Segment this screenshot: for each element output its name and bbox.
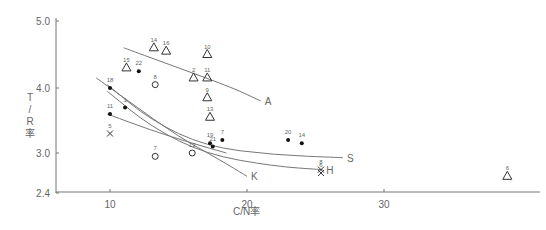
point-label: 16 — [163, 40, 170, 46]
data-point-a: 10 — [203, 44, 212, 58]
point-label: 11 — [107, 103, 114, 109]
y-axis-label: T/R率 — [24, 92, 36, 140]
curve-label-h: H — [326, 165, 333, 176]
data-point-a: 14 — [149, 37, 158, 51]
y-tick-label: 2.4 — [36, 188, 50, 199]
x-axis-label: C/N率 — [233, 203, 260, 218]
data-point-a: 9 — [203, 87, 212, 101]
data-point-s: 14 — [298, 132, 305, 145]
data-point-s: 22 — [135, 60, 142, 73]
point-label: 10 — [204, 44, 211, 50]
point-label: 8 — [154, 74, 158, 80]
curve-s — [107, 85, 343, 158]
point-label: 18 — [107, 77, 114, 83]
y-tick-label: 5.0 — [36, 16, 50, 27]
point-label: 6 — [319, 162, 323, 168]
data-point-h: 5 — [107, 123, 113, 137]
x-tick-label: 10 — [104, 199, 116, 210]
y-tick-label: 3.0 — [36, 148, 50, 159]
curve-label-a: A — [265, 96, 272, 107]
y-tick-label: 4.0 — [36, 83, 50, 94]
data-points: 14161015211913622181112014719215868712 — [107, 37, 512, 180]
point-label: 20 — [285, 129, 292, 135]
data-point-k: 12 — [189, 142, 196, 156]
point-label: 7 — [221, 129, 225, 135]
point-label: 7 — [154, 145, 158, 151]
point-label: 14 — [298, 132, 305, 138]
data-point-a: 2 — [189, 67, 198, 81]
point-label: 13 — [207, 106, 214, 112]
point-label: 6 — [506, 165, 510, 171]
scatter-chart: 2.43.04.05.0102030 ASHK 1416101521191362… — [0, 0, 546, 230]
curve-k — [96, 78, 247, 176]
point-label: 5 — [108, 123, 112, 129]
point-label: 9 — [206, 87, 210, 93]
curve-label-k: K — [251, 171, 258, 182]
point-label: 2 — [192, 67, 196, 73]
point-label: 12 — [189, 142, 196, 148]
data-point-k: 8 — [152, 74, 158, 88]
point-label: 11 — [204, 67, 211, 73]
curve-label-s: S — [347, 153, 354, 164]
x-tick-label: 30 — [378, 199, 390, 210]
data-point-s: 20 — [285, 129, 292, 142]
data-point-a: 6 — [503, 165, 512, 179]
data-point-a: 16 — [162, 40, 171, 54]
point-label: 21 — [209, 136, 216, 142]
data-point-s: 7 — [220, 129, 224, 142]
data-point-k: 7 — [152, 145, 158, 159]
data-point-s: 18 — [107, 77, 114, 90]
point-label: 14 — [150, 37, 157, 43]
data-point-a: 13 — [206, 106, 215, 120]
regression-curves: ASHK — [96, 48, 354, 183]
data-point-a: 15 — [122, 57, 131, 71]
data-point-s: 1 — [123, 97, 127, 110]
point-label: 22 — [135, 60, 142, 66]
point-label: 15 — [123, 57, 130, 63]
